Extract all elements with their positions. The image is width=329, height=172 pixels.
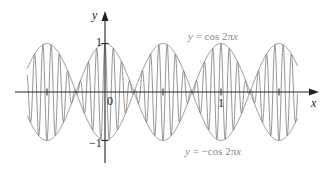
- origin-label: 0: [107, 95, 113, 107]
- cos-label-eq: = cos 2π: [193, 30, 233, 42]
- y-tick-label-1: 1: [96, 36, 102, 48]
- negcos-label-eq: = −cos 2π: [190, 145, 236, 157]
- x-axis-arrow-icon: [309, 89, 319, 96]
- cos-curve-label: y = cos 2πx: [188, 30, 238, 42]
- cos-label-x: x: [233, 30, 238, 42]
- y-axis-arrow-icon: [102, 11, 109, 21]
- y-tick-label-neg1: −1: [89, 137, 102, 149]
- chart-canvas: [0, 0, 329, 172]
- negcos-curve-label: y = −cos 2πx: [185, 145, 241, 157]
- negcos-label-x: x: [236, 145, 241, 157]
- x-axis-label: x: [311, 97, 316, 109]
- x-tick-label-1: 1: [218, 97, 224, 109]
- y-axis-label: y: [92, 9, 97, 21]
